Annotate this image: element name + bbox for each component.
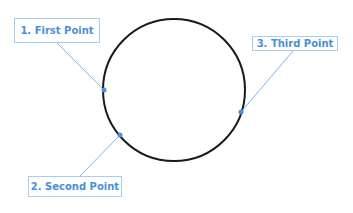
leader-line-third-point [241, 51, 293, 112]
label-first-point: 1. First Point [14, 18, 100, 43]
label-second-point-text: 2. Second Point [31, 182, 119, 192]
point-dot-third [239, 110, 244, 115]
label-second-point: 2. Second Point [28, 176, 122, 197]
label-third-point-text: 3. Third Point [257, 39, 334, 49]
circle [103, 19, 245, 161]
leader-line-second-point [80, 135, 120, 176]
point-dot-first [102, 88, 107, 93]
point-dot-second [118, 133, 123, 138]
leader-line-first-point [57, 43, 104, 90]
label-third-point: 3. Third Point [252, 36, 338, 51]
label-first-point-text: 1. First Point [20, 26, 93, 36]
